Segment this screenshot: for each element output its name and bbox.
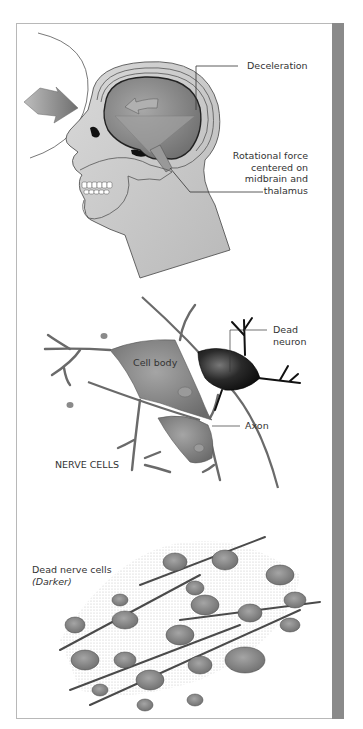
illustration-canvas [0, 0, 363, 729]
impact-arrow-icon [24, 87, 78, 123]
lower-neuron [158, 416, 213, 463]
label-nerve-cells: NERVE CELLS [55, 459, 119, 471]
label-dead-nerve-cells: Dead nerve cells (Darker) [32, 564, 112, 587]
label-rotational-force: Rotational force centered on midbrain an… [228, 150, 308, 196]
label-axon: Axon [245, 420, 269, 432]
label-dead-neuron: Dead neuron [273, 324, 306, 347]
label-cell-body: Cell body [133, 357, 177, 369]
label-deceleration: Deceleration [247, 60, 308, 72]
dead-neuron [198, 349, 260, 391]
